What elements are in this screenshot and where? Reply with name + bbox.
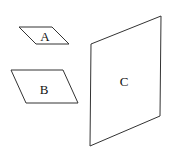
- plane-b: B: [11, 70, 78, 103]
- plane-a: A: [19, 27, 69, 44]
- plane-b-label: B: [40, 82, 49, 97]
- diagram-canvas: A B C: [0, 0, 169, 152]
- plane-c: C: [90, 16, 161, 146]
- plane-a-label: A: [40, 29, 50, 44]
- plane-c-label: C: [120, 74, 129, 89]
